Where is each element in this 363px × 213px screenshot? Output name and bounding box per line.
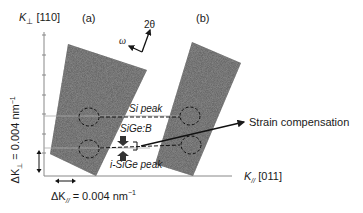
omega-label: ω <box>119 36 126 46</box>
strain-compensation-label: Strain compensation <box>249 117 349 128</box>
diagram-canvas <box>0 0 363 213</box>
rsm-map-b <box>155 42 241 176</box>
dk-perp-arrow <box>37 150 42 173</box>
2theta-label: 2θ <box>144 20 155 30</box>
panel-a-label: (a) <box>82 13 95 24</box>
isige-peak-label: i-SiGe peak <box>110 160 162 170</box>
x-axis-label: K// [011] <box>244 171 282 184</box>
sige-b-label: SiGe:B <box>120 124 152 134</box>
dk-perp-label: ΔK⊥ = 0.004 nm−1 <box>9 83 24 183</box>
2theta-arrow <box>142 30 150 52</box>
dk-par-arrow <box>55 179 76 184</box>
omega-arrow <box>129 46 142 52</box>
y-axis <box>42 32 46 176</box>
y-axis-label: K⊥ [110] <box>19 12 60 26</box>
panel-b-label: (b) <box>196 13 209 24</box>
block-arrow-down <box>117 136 129 146</box>
si-peak-label: Si peak <box>129 104 162 114</box>
dk-par-label: ΔK// = 0.004 nm−1 <box>51 189 136 204</box>
